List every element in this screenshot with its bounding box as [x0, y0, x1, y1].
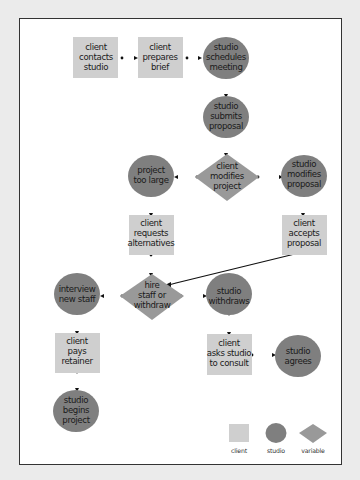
svg-text:modifies: modifies	[287, 169, 322, 179]
svg-text:project: project	[213, 181, 241, 191]
svg-text:studio: studio	[292, 159, 316, 169]
svg-text:meeting: meeting	[209, 62, 242, 72]
node-studio-schedules-meeting: studio schedules meeting	[203, 37, 249, 79]
svg-text:interview: interview	[59, 284, 96, 294]
node-studio-withdraws: studio withdraws	[206, 273, 252, 315]
svg-text:alternatives: alternatives	[128, 238, 176, 248]
svg-text:staff or: staff or	[138, 290, 167, 300]
svg-text:requests: requests	[134, 228, 169, 238]
svg-text:client: client	[293, 218, 315, 228]
svg-text:begins: begins	[63, 405, 90, 415]
svg-text:variable: variable	[301, 447, 325, 454]
svg-text:contacts: contacts	[79, 52, 114, 62]
svg-text:brief: brief	[151, 62, 170, 72]
svg-text:modifies: modifies	[210, 171, 245, 181]
svg-text:prepares: prepares	[142, 52, 178, 62]
node-project-too-large: project too large	[128, 155, 174, 197]
connectors	[75, 56, 305, 392]
svg-text:proposal: proposal	[287, 179, 321, 189]
svg-text:client: client	[140, 218, 162, 228]
svg-text:studio: studio	[217, 286, 241, 296]
svg-text:hire: hire	[144, 280, 159, 290]
svg-text:new staff: new staff	[59, 294, 97, 304]
svg-text:client: client	[216, 161, 238, 171]
svg-text:asks studio: asks studio	[207, 348, 252, 358]
node-studio-modifies-proposal: studio modifies proposal	[281, 155, 327, 197]
node-interview-new-staff: interview new staff	[54, 273, 100, 315]
svg-text:studio: studio	[64, 395, 88, 405]
svg-text:submits: submits	[210, 111, 242, 121]
svg-text:project: project	[62, 415, 90, 425]
svg-text:to consult: to consult	[210, 358, 250, 368]
legend-item-studio: studio	[266, 423, 287, 454]
node-client-requests-alternatives: client requests alternatives	[128, 215, 176, 255]
node-studio-submits-proposal: studio submits proposal	[203, 96, 249, 138]
svg-text:withdraws: withdraws	[209, 296, 251, 306]
svg-text:studio: studio	[84, 62, 108, 72]
svg-text:retainer: retainer	[61, 356, 93, 366]
svg-text:project: project	[137, 165, 165, 175]
svg-text:schedules: schedules	[206, 52, 247, 62]
node-client-asks-studio-to-consult: client asks studio to consult	[207, 334, 252, 375]
svg-text:studio: studio	[214, 42, 238, 52]
svg-text:studio: studio	[286, 346, 310, 356]
node-hire-staff-or-withdraw: hire staff or withdraw	[120, 274, 184, 320]
svg-text:studio: studio	[267, 447, 285, 454]
svg-text:client: client	[85, 42, 107, 52]
svg-text:accepts: accepts	[289, 228, 321, 238]
svg-text:pays: pays	[68, 346, 88, 356]
workflow-diagram: client contacts studio client prepares b…	[0, 0, 360, 480]
node-client-pays-retainer: client pays retainer	[55, 333, 100, 373]
node-studio-begins-project: studio begins project	[53, 390, 99, 432]
node-client-contacts-studio: client contacts studio	[73, 37, 118, 78]
node-client-modifies-project: client modifies project	[195, 154, 259, 201]
svg-text:withdraw: withdraw	[134, 300, 171, 310]
node-studio-agrees: studio agrees	[275, 335, 321, 377]
svg-text:agrees: agrees	[284, 356, 312, 366]
svg-text:studio: studio	[214, 101, 238, 111]
legend-item-client: client	[229, 424, 249, 454]
svg-text:too large: too large	[133, 175, 168, 185]
legend: client studio variable	[229, 423, 327, 454]
svg-text:client: client	[218, 338, 240, 348]
legend-item-variable: variable	[299, 424, 327, 454]
svg-text:client: client	[149, 42, 171, 52]
node-client-prepares-brief: client prepares brief	[138, 37, 183, 78]
node-client-accepts-proposal: client accepts proposal	[282, 215, 327, 255]
svg-text:client: client	[231, 447, 248, 454]
svg-text:client: client	[66, 336, 88, 346]
svg-text:proposal: proposal	[209, 121, 243, 131]
svg-text:proposal: proposal	[287, 238, 321, 248]
